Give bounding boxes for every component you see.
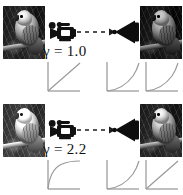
plot-camera-transfer	[44, 158, 82, 194]
parrot-illustration	[140, 6, 182, 59]
plot-end-to-end-transfer	[142, 60, 180, 96]
parrot-photo-displayed	[140, 104, 182, 157]
video-camera-icon	[48, 118, 78, 142]
parrot-beak	[151, 15, 156, 21]
parrot-eye	[20, 15, 23, 18]
parrot-beak	[14, 15, 19, 21]
plot-end-to-end-transfer	[142, 158, 180, 194]
projector-cone-icon	[112, 115, 142, 145]
gamma-correction-figure: γ = 1.0	[0, 0, 183, 195]
parrot-photo-source	[3, 104, 45, 157]
parrot-photo-displayed	[140, 6, 182, 59]
parrot-eye	[157, 113, 160, 116]
plot-display-transfer	[103, 158, 141, 194]
parrot-illustration	[140, 104, 182, 157]
plot-camera-transfer	[44, 60, 82, 96]
gamma-label: γ = 2.2	[43, 142, 86, 157]
pipeline-row-gamma-1: γ = 1.0	[0, 0, 183, 97]
plot-display-transfer	[103, 60, 141, 96]
projector-cone-icon	[112, 17, 142, 47]
parrot-eye	[20, 113, 23, 116]
parrot-illustration	[3, 104, 45, 157]
video-camera-icon	[48, 20, 78, 44]
gamma-label: γ = 1.0	[43, 44, 86, 59]
parrot-eye	[157, 15, 160, 18]
parrot-beak	[151, 113, 156, 119]
parrot-illustration	[3, 6, 45, 59]
parrot-photo-source	[3, 6, 45, 59]
parrot-beak	[14, 113, 19, 119]
pipeline-row-gamma-2: γ = 2.2	[0, 98, 183, 195]
